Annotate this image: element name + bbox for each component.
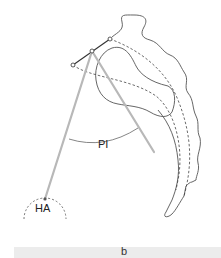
pi-label: PI: [98, 139, 108, 150]
rod-to-hip-axis: [45, 51, 92, 199]
sacrum-outline: [96, 47, 175, 116]
rod-perpendicular: [92, 51, 154, 152]
hip-axis-point: [43, 197, 46, 200]
dashed-curve-inner: [73, 65, 180, 190]
pelvic-incidence-diagram: [0, 0, 221, 258]
dashed-curve-outer: [110, 39, 190, 196]
panel-label: b: [121, 246, 127, 257]
caption-bar: [14, 247, 221, 258]
endplate-point-posterior: [108, 37, 112, 41]
endplate-point-anterior: [71, 63, 75, 67]
ha-label: HA: [35, 203, 50, 214]
endplate-midpoint: [90, 49, 94, 53]
body-silhouette: [112, 15, 200, 217]
